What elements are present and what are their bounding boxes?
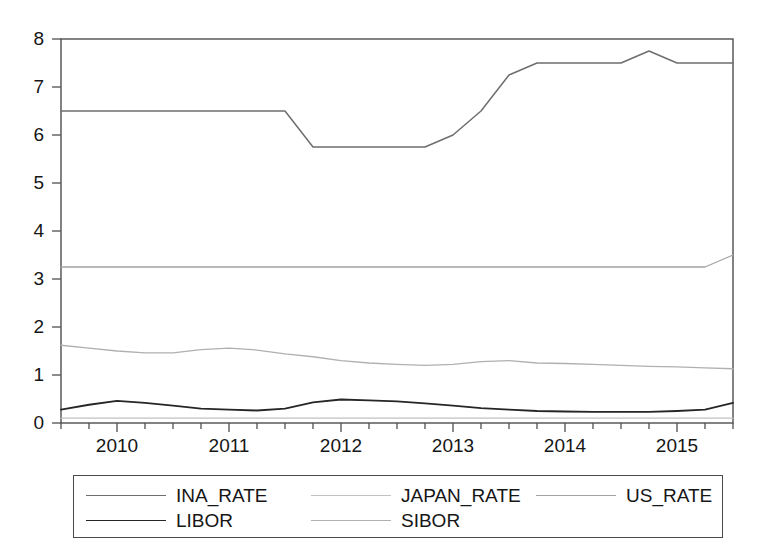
x-axis-tick-label: 2013	[418, 436, 488, 455]
chart-legend: INA_RATEJAPAN_RATEUS_RATELIBORSIBOR	[73, 475, 723, 538]
legend-line-swatch	[86, 495, 166, 496]
y-axis-tick-label: 7	[14, 77, 44, 96]
legend-item-label: INA_RATE	[176, 486, 268, 505]
series-line-sibor	[61, 345, 733, 369]
chart-figure: 876543210 201020112012201320142015 INA_R…	[0, 0, 759, 556]
y-axis-tick-label: 0	[14, 413, 44, 432]
legend-item-libor[interactable]: LIBOR	[86, 509, 233, 531]
legend-item-sibor[interactable]: SIBOR	[311, 509, 460, 531]
x-axis-tick-label: 2014	[530, 436, 600, 455]
x-axis-tick-label: 2011	[194, 436, 264, 455]
legend-line-swatch	[86, 520, 166, 521]
legend-item-label: LIBOR	[176, 511, 233, 530]
legend-item-us-rate[interactable]: US_RATE	[536, 484, 712, 506]
series-line-ina-rate	[61, 51, 733, 147]
legend-item-ina-rate[interactable]: INA_RATE	[86, 484, 268, 506]
legend-line-swatch	[311, 495, 391, 496]
y-axis-tick-label: 1	[14, 365, 44, 384]
y-axis-tick-label: 4	[14, 221, 44, 240]
y-axis-tick-label: 3	[14, 269, 44, 288]
legend-item-label: US_RATE	[626, 486, 712, 505]
y-axis-tick-label: 2	[14, 317, 44, 336]
x-axis-tick-label: 2015	[642, 436, 712, 455]
x-axis-tick-label: 2010	[82, 436, 152, 455]
legend-item-label: JAPAN_RATE	[401, 486, 521, 505]
y-axis-tick-label: 8	[14, 29, 44, 48]
legend-item-label: SIBOR	[401, 511, 460, 530]
y-axis-tick-label: 6	[14, 125, 44, 144]
legend-item-japan-rate[interactable]: JAPAN_RATE	[311, 484, 521, 506]
legend-line-swatch	[536, 495, 616, 496]
series-line-us-rate	[61, 255, 733, 267]
x-axis-tick-label: 2012	[306, 436, 376, 455]
legend-line-swatch	[311, 520, 391, 521]
y-axis-tick-label: 5	[14, 173, 44, 192]
line-chart-plot	[0, 0, 759, 556]
series-line-libor	[61, 399, 733, 411]
